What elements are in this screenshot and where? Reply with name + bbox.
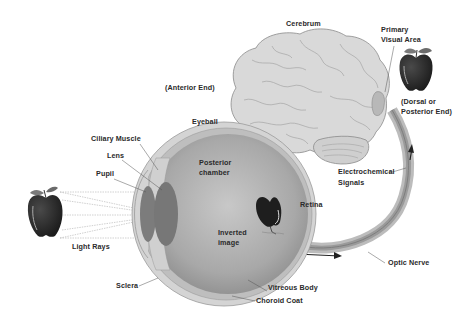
label-lens: Lens [107,151,124,161]
eyeball [132,122,316,306]
label-sclera: Sclera [116,281,138,291]
label-retina: Retina [300,200,323,210]
visual-pathway-diagram: Cerebrum Primary Visual Area (Dorsal or … [0,0,471,325]
apple-icon [399,48,432,91]
label-light-rays: Light Rays [72,242,110,252]
label-eyeball: Eyeball [192,117,218,127]
label-posterior-chamber-line1: Posterior [199,158,231,168]
label-electrochemical-line1: Electrochemical [338,167,395,177]
pupil-iris [140,186,156,242]
label-vitreous-body: Vitreous Body [268,283,318,293]
label-primary-visual-area-line1: Primary [381,25,408,35]
label-posterior-chamber-line2: chamber [199,168,230,178]
label-inverted-image-line2: image [218,238,239,248]
label-optic-nerve: Optic Nerve [388,258,429,268]
lens-shape [154,182,178,246]
label-electrochemical-line2: Signals [338,178,364,188]
label-dorsal-line2: Posterior End) [401,107,452,117]
label-pupil: Pupil [96,169,114,179]
label-inverted-image-line1: Inverted [218,228,247,238]
cerebellum-shape [314,136,369,164]
label-dorsal-line1: (Dorsal or [401,97,436,107]
label-cerebrum: Cerebrum [286,19,321,29]
label-choroid-coat: Choroid Coat [256,296,303,306]
label-ciliary-muscle: Ciliary Muscle [91,134,141,144]
apple-object-icon [28,187,63,237]
label-anterior-end: (Anterior End) [165,83,215,93]
label-primary-visual-area-line2: Visual Area [381,35,421,45]
